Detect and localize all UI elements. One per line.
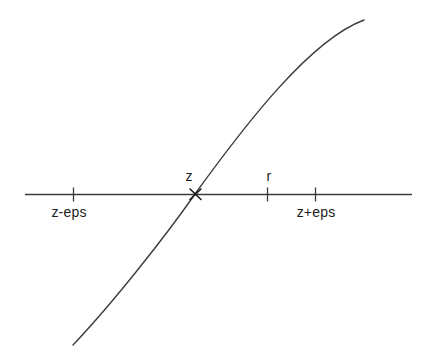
label-z-minus-eps: z-eps bbox=[51, 205, 86, 219]
function-curve bbox=[73, 20, 364, 345]
label-z-plus-eps: z+eps bbox=[297, 205, 336, 219]
function-plot bbox=[0, 0, 430, 364]
label-root-z: z bbox=[185, 169, 192, 183]
label-point-r: r bbox=[267, 169, 272, 183]
figure-canvas: z r z-eps z+eps bbox=[0, 0, 430, 364]
